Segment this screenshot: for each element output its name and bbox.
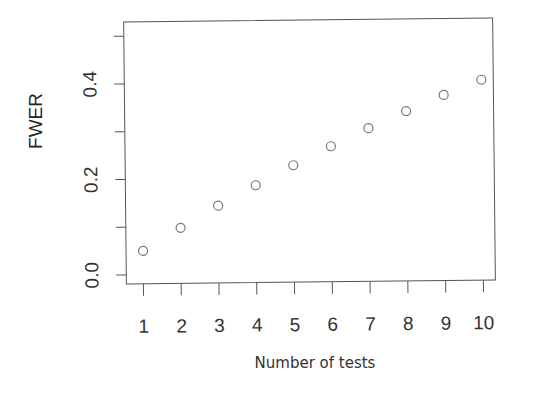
y-tick-label: 0.2 (80, 166, 101, 193)
y-axis-label: FWER (25, 93, 46, 149)
x-tick-label: 7 (365, 313, 376, 334)
data-points (137, 75, 488, 255)
y-axis: 0.00.20.4 (79, 36, 127, 288)
x-tick-label: 8 (403, 313, 414, 334)
x-tick-label: 4 (252, 315, 263, 336)
data-point (251, 181, 260, 190)
x-tick-label: 2 (176, 315, 187, 336)
data-point (326, 142, 335, 151)
x-tick-label: 3 (214, 315, 225, 336)
x-tick-label: 5 (290, 314, 301, 335)
x-axis: 12345678910 (138, 280, 494, 337)
data-point (176, 223, 185, 232)
x-tick-label: 6 (327, 314, 338, 335)
y-tick-label: 0.0 (81, 262, 102, 289)
x-axis-label: Number of tests (255, 354, 376, 372)
x-tick-label: 10 (473, 312, 494, 333)
data-point (214, 201, 223, 210)
data-point (401, 107, 410, 116)
data-point (139, 246, 148, 255)
x-tick-label: 1 (138, 316, 149, 337)
fwer-scatter-chart: 0.00.20.4 12345678910 FWER Number of tes… (0, 0, 536, 394)
data-point (439, 90, 448, 99)
data-point (477, 75, 486, 84)
data-point (289, 161, 298, 170)
plot-box (124, 18, 496, 284)
x-tick-label: 9 (441, 313, 452, 334)
data-point (364, 124, 373, 133)
y-tick-label: 0.4 (79, 71, 100, 98)
